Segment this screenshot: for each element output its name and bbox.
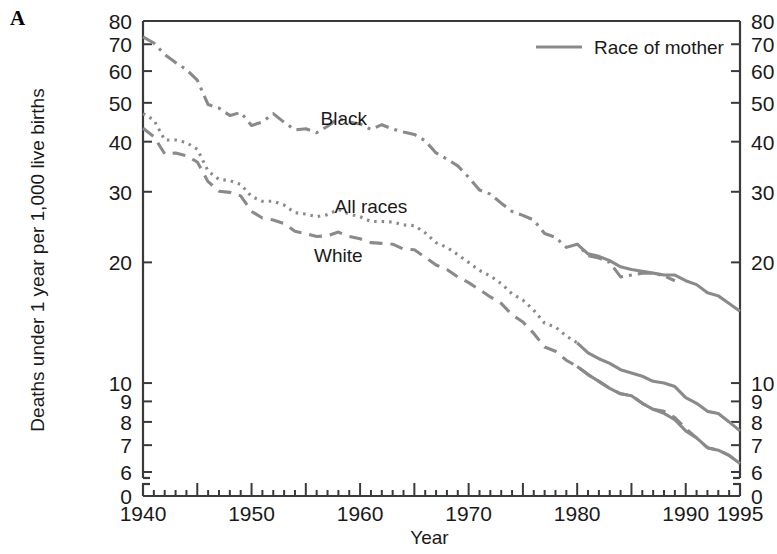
- figure-panel-a: A 80807070606050504040303020201010998877…: [0, 0, 777, 554]
- series-label: Black: [321, 108, 368, 129]
- x-tick-label: 1990: [662, 502, 709, 525]
- x-tick-label: 1970: [445, 502, 492, 525]
- y-tick-label-right: 8: [751, 411, 763, 434]
- y-tick-label-left: 8: [120, 411, 132, 434]
- y-tick-label-left: 20: [109, 251, 132, 274]
- x-tick-label: 1980: [554, 502, 601, 525]
- y-tick-label-right: 50: [751, 92, 774, 115]
- x-axis-ticks: 1940195019601970198019901995: [120, 483, 764, 525]
- series-annotations: BlackAll racesWhite: [314, 108, 407, 266]
- series-line: [577, 244, 740, 311]
- y-tick-label-left: 50: [109, 92, 132, 115]
- y-tick-label-left: 40: [109, 131, 132, 154]
- series-group: [143, 37, 740, 464]
- series-line: [143, 114, 577, 343]
- y-tick-label-left: 60: [109, 60, 132, 83]
- y-tick-label-right: 70: [751, 33, 774, 56]
- y-axis-title: Deaths under 1 year per 1,000 live birth…: [27, 88, 48, 431]
- x-axis-title: Year: [410, 527, 449, 548]
- x-tick-label: 1950: [228, 502, 275, 525]
- series-label: All races: [335, 196, 408, 217]
- y-tick-label-right: 40: [751, 131, 774, 154]
- y-tick-label-right: 30: [751, 181, 774, 204]
- y-tick-label-right: 80: [751, 10, 774, 33]
- series-line: [143, 128, 740, 463]
- x-tick-label: 1940: [120, 502, 167, 525]
- y-axis-ticks: 8080707060605050404030302020101099887766…: [109, 10, 775, 508]
- y-tick-label-left: 70: [109, 33, 132, 56]
- y-tick-label-right: 7: [751, 434, 763, 457]
- infant-mortality-line-chart: 8080707060605050404030302020101099887766…: [0, 0, 777, 554]
- y-tick-label-left: 7: [120, 434, 132, 457]
- y-tick-label-left: 30: [109, 181, 132, 204]
- panel-letter: A: [10, 6, 25, 31]
- y-tick-label-left: 80: [109, 10, 132, 33]
- legend-label: Race of mother: [594, 37, 725, 58]
- x-tick-label: 1995: [717, 502, 764, 525]
- x-tick-label: 1960: [337, 502, 384, 525]
- series-line: [143, 37, 675, 281]
- series-line: [577, 343, 740, 431]
- y-tick-label-right: 20: [751, 251, 774, 274]
- series-label: White: [314, 245, 363, 266]
- y-tick-label-left: 6: [120, 461, 132, 484]
- y-tick-label-right: 6: [751, 461, 763, 484]
- axis-frame: [143, 21, 740, 496]
- y-tick-label-right: 60: [751, 60, 774, 83]
- legend: Race of mother: [536, 37, 725, 58]
